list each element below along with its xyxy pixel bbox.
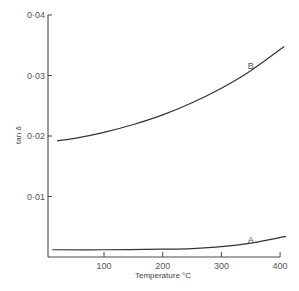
axes	[48, 15, 280, 257]
curves: BA	[52, 46, 286, 249]
y-tick-label: 0·03	[27, 71, 45, 81]
x-tick-label: 100	[96, 261, 111, 271]
y-axis-title: tan δ	[14, 126, 23, 144]
x-tick-label: 400	[273, 261, 288, 271]
y-tick-label: 0·02	[27, 131, 45, 141]
x-tick-label: 200	[155, 261, 170, 271]
x-axis-title: Temperature °C	[135, 271, 191, 280]
curve-label-b: B	[248, 61, 254, 71]
y-tick-label: 0·04	[27, 10, 45, 20]
curve-label-a: A	[248, 235, 254, 245]
x-tick-label: 300	[214, 261, 229, 271]
x-ticks: 100200300400	[96, 252, 287, 271]
y-tick-label: 0·01	[27, 192, 45, 202]
tan-delta-vs-temperature-chart: 0·010·020·030·04 100200300400 BA Tempera…	[0, 0, 299, 291]
